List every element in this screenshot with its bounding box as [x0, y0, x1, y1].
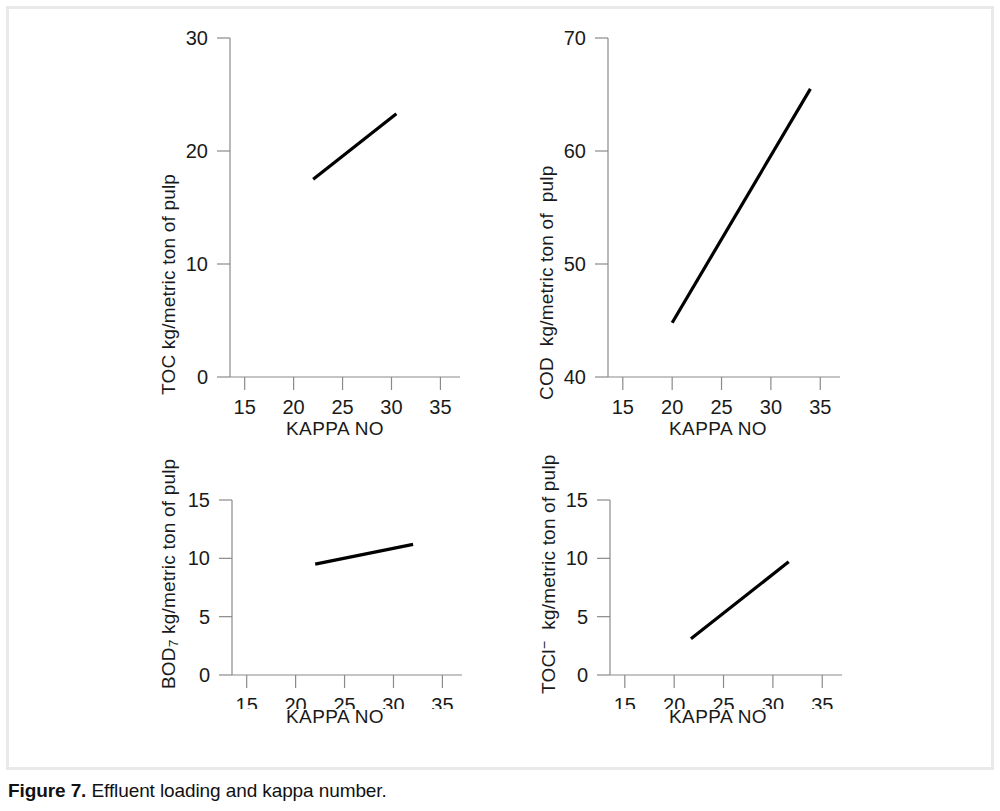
- figure-caption: Figure 7. Effluent loading and kappa num…: [8, 780, 988, 802]
- data-line-bod7-0: [315, 544, 413, 564]
- y-axis-title-cod-text: COD kg/metric ton of pulp: [536, 165, 557, 400]
- y-tick-label-bod7-2: 10: [188, 547, 210, 569]
- y-axis-title-tocl-text: TOCl− kg/metric ton of pulp: [538, 454, 559, 694]
- x-axis-title-cod: KAPPA NO: [588, 418, 848, 440]
- y-tick-label-cod-1: 50: [564, 253, 586, 275]
- y-tick-label-cod-0: 40: [564, 366, 586, 388]
- x-tick-label-toc-4: 35: [429, 396, 451, 418]
- chart-panel-tocl: 0510151520253035 KAPPA NO TOCl− kg/metri…: [528, 484, 868, 744]
- y-tick-label-bod7-3: 15: [188, 489, 210, 511]
- chart-svg-tocl: 0510151520253035: [528, 484, 868, 709]
- x-axis-title-tocl: KAPPA NO: [588, 706, 848, 728]
- x-tick-label-toc-2: 25: [331, 396, 353, 418]
- y-axis-title-toc-text: TOC kg/metric ton of pulp: [158, 174, 179, 395]
- y-tick-label-tocl-1: 5: [577, 606, 588, 628]
- y-tick-label-toc-0: 0: [197, 366, 208, 388]
- x-tick-label-cod-2: 25: [710, 396, 732, 418]
- y-axis-title-bod7-text: BOD7 kg/metric ton of pulp: [158, 459, 179, 689]
- chart-panel-bod7: 0510151520253035 KAPPA NO BOD7 kg/metric…: [150, 484, 480, 744]
- x-axis-title-toc: KAPPA NO: [205, 418, 465, 440]
- y-tick-label-toc-3: 30: [186, 27, 208, 49]
- figure-caption-label: Figure 7.: [8, 780, 86, 801]
- x-tick-label-cod-3: 30: [760, 396, 782, 418]
- chart-svg-bod7: 0510151520253035: [150, 484, 480, 709]
- y-axis-title-cod: COD kg/metric ton of pulp: [536, 165, 558, 400]
- x-tick-label-toc-1: 20: [282, 396, 304, 418]
- y-axis-title-tocl: TOCl− kg/metric ton of pulp: [536, 454, 560, 694]
- chart-panel-toc: 01020301520253035 KAPPA NO TOC kg/metric…: [150, 20, 480, 440]
- figure-container: 01020301520253035 KAPPA NO TOC kg/metric…: [0, 0, 1000, 811]
- x-tick-label-cod-1: 20: [661, 396, 683, 418]
- y-tick-label-toc-1: 10: [186, 253, 208, 275]
- data-line-tocl-0: [691, 562, 789, 639]
- figure-caption-text: Effluent loading and kappa number.: [91, 780, 386, 801]
- x-tick-label-cod-4: 35: [809, 396, 831, 418]
- y-tick-label-tocl-2: 10: [566, 547, 588, 569]
- x-tick-label-cod-0: 15: [612, 396, 634, 418]
- y-tick-label-toc-2: 20: [186, 140, 208, 162]
- x-tick-label-toc-3: 30: [380, 396, 402, 418]
- y-tick-label-cod-2: 60: [564, 140, 586, 162]
- y-tick-label-tocl-0: 0: [577, 664, 588, 686]
- y-tick-label-tocl-3: 15: [566, 489, 588, 511]
- y-axis-title-toc: TOC kg/metric ton of pulp: [158, 174, 180, 395]
- y-tick-label-cod-3: 70: [564, 27, 586, 49]
- data-line-toc-0: [313, 114, 396, 180]
- data-line-cod-0: [672, 89, 810, 323]
- chart-svg-toc: 01020301520253035: [150, 20, 480, 420]
- x-tick-label-toc-0: 15: [234, 396, 256, 418]
- chart-svg-cod: 405060701520253035: [528, 20, 868, 420]
- chart-panel-cod: 405060701520253035 KAPPA NO COD kg/metri…: [528, 20, 868, 440]
- y-tick-label-bod7-1: 5: [199, 606, 210, 628]
- y-tick-label-bod7-0: 0: [199, 664, 210, 686]
- x-axis-title-bod7: KAPPA NO: [205, 706, 465, 728]
- y-axis-title-bod7: BOD7 kg/metric ton of pulp: [158, 459, 181, 689]
